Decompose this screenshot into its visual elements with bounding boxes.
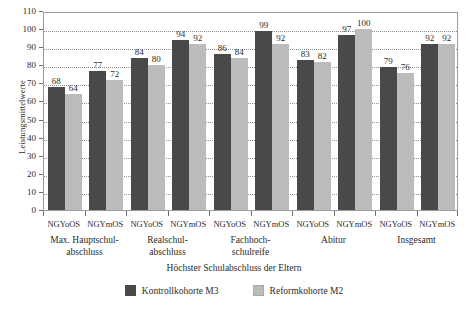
y-axis-tick-label: 70 [27, 78, 36, 89]
x-axis-tickmark [85, 211, 86, 216]
bar [48, 87, 65, 210]
bar-value-label: 80 [145, 54, 168, 64]
bar [65, 94, 82, 210]
x-axis-tickmark [292, 211, 293, 216]
legend-swatch [253, 285, 264, 296]
bar-value-label: 100 [352, 18, 375, 28]
legend-item: Kontrollkohorte M3 [125, 285, 219, 296]
x-axis-tickmark [457, 211, 458, 216]
y-axis-tick-label: 100 [23, 24, 37, 35]
bar [214, 54, 231, 210]
y-axis-tick-label: 0 [32, 205, 37, 216]
x-axis-category-line: Max. Hauptschul- [43, 234, 126, 246]
x-axis-subgroup-labels: NGYoOSNGYmOSNGYoOSNGYmOSNGYoOSNGYmOSNGYo… [43, 218, 458, 232]
bar [89, 71, 106, 210]
y-axis-tick-label: 110 [23, 6, 36, 17]
chart-legend: Kontrollkohorte M3Reformkohorte M2 [0, 285, 468, 296]
x-axis-tickmark [417, 211, 418, 216]
y-axis-tick-label: 30 [27, 151, 36, 162]
x-axis-category-line: Abitur [292, 234, 375, 246]
x-axis-category-line: Fachhoch- [209, 234, 292, 246]
y-axis-tick-label: 60 [27, 96, 36, 107]
x-axis-category-line: Insgesamt [375, 234, 458, 246]
bar [314, 62, 331, 210]
bar-value-label: 92 [186, 33, 209, 43]
y-axis-tick-label: 50 [27, 115, 36, 126]
y-axis-tick-label: 10 [27, 187, 36, 198]
bar [397, 73, 414, 210]
x-axis-category-line: abschluss [126, 246, 209, 258]
y-axis-tick-label: 90 [27, 42, 36, 53]
bar-value-label: 76 [394, 62, 417, 72]
x-axis-tickmarks [43, 211, 458, 217]
bar [106, 80, 123, 210]
bar [255, 31, 272, 210]
bar-value-label: 84 [228, 47, 251, 57]
x-axis-category-label: Fachhoch-schulreife [209, 234, 292, 258]
bar [421, 44, 438, 210]
x-axis-title: Höchster Schulabschluss der Eltern [0, 263, 468, 273]
x-axis-category-label: Insgesamt [375, 234, 458, 246]
bar [297, 60, 314, 210]
x-axis-category-label: Abitur [292, 234, 375, 246]
bar-value-label: 92 [435, 33, 458, 43]
y-axis-tick-label: 80 [27, 60, 36, 71]
x-axis-tickmark [168, 211, 169, 216]
x-axis-tickmark [375, 211, 376, 216]
bar-series-container: 6864777284809492868499928382971007976929… [44, 13, 457, 210]
bar [148, 65, 165, 210]
bar [189, 44, 206, 210]
bar-value-label: 72 [103, 69, 126, 79]
bar-chart-figure: Leistungsmittelwerte 0102030405060708090… [0, 0, 468, 312]
y-axis-tick-label: 40 [27, 133, 36, 144]
x-axis-tickmark [209, 211, 210, 216]
x-axis-tickmark [251, 211, 252, 216]
bar [131, 58, 148, 210]
x-axis-category-labels: Max. Hauptschul-abschlussRealschul-absch… [43, 234, 458, 264]
bar-value-label: 99 [252, 20, 275, 30]
y-axis-tick-label: 20 [27, 169, 36, 180]
bar [338, 35, 355, 210]
legend-label: Reformkohorte M2 [270, 286, 344, 296]
x-axis-category-line: Realschul- [126, 234, 209, 246]
x-axis-category-label: Max. Hauptschul-abschluss [43, 234, 126, 258]
x-axis-tickmark [126, 211, 127, 216]
x-axis-category-line: abschluss [43, 246, 126, 258]
y-axis: 0102030405060708090100110 [0, 12, 43, 211]
bar [272, 44, 289, 210]
x-axis-subgroup-label: NGYmOS [413, 218, 463, 230]
bar-value-label: 64 [62, 83, 85, 93]
plot-area: 6864777284809492868499928382971007976929… [43, 12, 458, 211]
legend-swatch [125, 285, 136, 296]
x-axis-category-line: schulreife [209, 246, 292, 258]
bar [438, 44, 455, 210]
legend-label: Kontrollkohorte M3 [142, 286, 219, 296]
bar [355, 29, 372, 210]
bar [231, 58, 248, 210]
bar-value-label: 82 [311, 51, 334, 61]
bar-value-label: 92 [269, 33, 292, 43]
bar [172, 40, 189, 210]
x-axis-tickmark [334, 211, 335, 216]
bar [380, 67, 397, 210]
x-axis-tickmark [43, 211, 44, 216]
x-axis-category-label: Realschul-abschluss [126, 234, 209, 258]
legend-item: Reformkohorte M2 [253, 285, 344, 296]
